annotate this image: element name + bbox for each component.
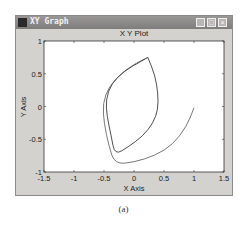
figure-caption: (a) — [0, 204, 247, 214]
y-tick-label: -0.5 — [29, 135, 42, 144]
x-tick-label: 0.5 — [159, 174, 169, 183]
x-tick-label: -0.5 — [98, 174, 111, 183]
x-tick-label: 0 — [132, 174, 136, 183]
x-axis-label: X Axis — [124, 184, 145, 193]
x-tick-label: -1 — [71, 174, 78, 183]
xy-plot-chart: X Y Plot -1.5-1-0.500.511.5 10.50-0.5-1 … — [0, 0, 247, 231]
y-tick-label: 0.5 — [32, 70, 42, 79]
x-tick-label: 1.5 — [219, 174, 229, 183]
y-tick-label: -1 — [35, 168, 42, 177]
y-tick-label: 0 — [38, 103, 42, 112]
y-axis-label: Y Axis — [19, 96, 28, 117]
x-tick-label: 1 — [192, 174, 196, 183]
plot-area — [44, 41, 224, 172]
chart-title: X Y Plot — [120, 29, 149, 38]
y-tick-label: 1 — [38, 37, 42, 46]
